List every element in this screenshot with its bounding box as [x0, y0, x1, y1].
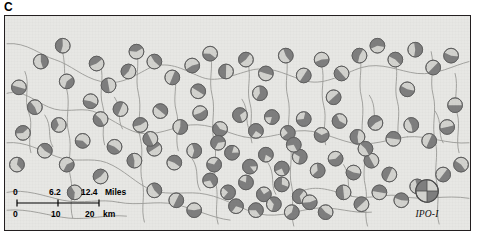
pie-marker [185, 58, 200, 73]
pie-marker [404, 118, 419, 133]
scale-tick-miles-mid: 6.2 [49, 187, 61, 197]
scale-bar: 0 6.2 12.4 Miles 0 10 20 km [13, 187, 125, 221]
pie-marker [372, 185, 387, 200]
pie-marker [93, 169, 108, 184]
pie-marker [133, 118, 148, 133]
pie-marker [10, 157, 25, 172]
pie-marker [12, 80, 27, 95]
pie-marker [448, 98, 463, 113]
pie-marker [334, 66, 349, 81]
legend-label: IPO-I [400, 209, 454, 219]
pie-marker [147, 183, 162, 198]
pie-marker [249, 124, 264, 139]
pie-marker [191, 84, 206, 99]
pie-marker [16, 126, 31, 141]
pie-marker [233, 108, 248, 123]
pie-marker [296, 112, 311, 127]
pie-marker [326, 90, 341, 105]
scale-tick-miles-0: 0 [13, 187, 18, 197]
pie-marker [302, 195, 317, 210]
legend: IPO-I [400, 178, 454, 222]
pie-marker [213, 122, 228, 137]
pie-marker [221, 185, 236, 200]
map-figure-panel: 0 6.2 12.4 Miles 0 10 20 km IPO-I [4, 15, 471, 231]
pie-marker [211, 135, 226, 150]
pie-marker [346, 165, 361, 180]
scale-unit-km: km [103, 209, 115, 219]
pie-marker [207, 157, 222, 172]
pie-marker [93, 112, 108, 127]
pie-marker [173, 120, 188, 135]
pie-marker [101, 78, 116, 93]
pie-marker [169, 193, 184, 208]
pie-marker [388, 52, 403, 67]
pie-marker [314, 52, 329, 67]
pie-marker [440, 120, 455, 135]
pie-marker [426, 60, 441, 75]
pie-marker [153, 104, 168, 119]
pie-marker [266, 197, 281, 212]
pie-marker [129, 44, 144, 59]
pie-marker [187, 203, 202, 218]
pie-marker [264, 110, 279, 125]
pie-marker [59, 74, 74, 89]
pie-marker [310, 163, 325, 178]
pie-marker [408, 42, 423, 57]
pie-marker [368, 116, 383, 131]
pie-marker [286, 137, 301, 152]
scale-unit-miles: Miles [105, 187, 126, 197]
scale-tick-km-0: 0 [13, 209, 18, 219]
pie-marker [382, 167, 397, 182]
pie-marker [318, 205, 333, 220]
pie-marker [229, 199, 244, 214]
pie-marker [354, 197, 369, 212]
scale-bar-rule [16, 199, 100, 207]
pie-marker [358, 141, 373, 156]
pie-marker [284, 205, 299, 220]
pie-marker [55, 38, 70, 53]
pie-marker [187, 143, 202, 158]
pie-marker [37, 143, 52, 158]
pie-marker [314, 128, 329, 143]
pie-marker [253, 86, 268, 101]
pie-marker [249, 203, 264, 218]
pie-marker [370, 38, 385, 53]
pie-marker [336, 185, 351, 200]
pie-marker [89, 56, 104, 71]
pie-marker [121, 64, 136, 79]
pie-marker [274, 161, 289, 176]
pie-marker [444, 48, 459, 63]
pie-marker [165, 70, 180, 85]
pie-marker [422, 134, 437, 149]
pie-marker [259, 147, 274, 162]
scale-tick-km-max: 20 [85, 209, 94, 219]
pie-marker [127, 153, 142, 168]
pie-marker [27, 100, 42, 115]
panel-label: C [4, 0, 13, 14]
pie-marker [75, 134, 90, 149]
pie-marker [239, 175, 254, 190]
pie-marker [243, 159, 258, 174]
pie-marker [113, 102, 128, 117]
pie-marker [167, 155, 182, 170]
pie-marker [203, 46, 218, 61]
pie-marker [259, 66, 274, 81]
pie-marker [107, 139, 122, 154]
pie-marker [400, 82, 415, 97]
pie-marker [203, 173, 218, 188]
pie-marker [278, 48, 293, 63]
pie-marker [239, 52, 254, 67]
scale-tick-miles-max: 12.4 [81, 187, 98, 197]
pie-marker [454, 157, 469, 172]
pie-marker [59, 157, 74, 172]
pie-marker [33, 54, 48, 69]
pie-marker [328, 151, 343, 166]
pie-quadrant-icon [414, 178, 440, 204]
scale-tick-km-mid: 10 [51, 209, 60, 219]
pie-marker [193, 106, 208, 121]
pie-marker [274, 177, 289, 192]
pie-marker [143, 132, 158, 147]
pie-marker [296, 68, 311, 83]
pie-marker [147, 54, 162, 69]
pie-marker [352, 48, 367, 63]
